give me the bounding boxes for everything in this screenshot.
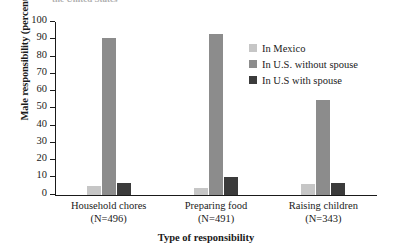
bar: [87, 186, 101, 195]
x-axis-group-label: Raising children(N=343): [253, 200, 393, 225]
y-axis-tick-label: 50: [37, 100, 48, 111]
y-axis-tick-label: 70: [37, 66, 48, 77]
x-axis-line: [55, 195, 377, 196]
bar: [117, 183, 131, 195]
x-axis-category-count: (N=343): [253, 213, 393, 226]
y-axis-title: Male responsibility (percent): [19, 0, 30, 138]
legend: In MexicoIn U.S. without spouseIn U.S wi…: [249, 41, 358, 89]
y-axis-tick: 20: [50, 159, 55, 160]
bar-group: [194, 22, 238, 195]
y-axis-tick-label: 10: [37, 169, 48, 180]
bar: [301, 184, 315, 194]
y-axis-tick: 0: [50, 194, 55, 195]
y-axis-line: [55, 22, 56, 196]
x-axis-title: Type of responsibility: [0, 232, 412, 243]
bar: [331, 183, 345, 195]
y-axis-tick: 80: [50, 56, 55, 57]
y-axis-tick-label: 90: [37, 31, 48, 42]
legend-item: In U.S. without spouse: [249, 57, 358, 71]
bar: [316, 100, 330, 195]
legend-item: In U.S with spouse: [249, 73, 358, 87]
bar-chart-figure: the United States Male responsibility (p…: [0, 0, 412, 249]
y-axis-tick-label: 40: [37, 118, 48, 129]
y-axis-tick: 60: [50, 90, 55, 91]
y-axis-tick-label: 60: [37, 83, 48, 94]
y-axis-tick: 70: [50, 73, 55, 74]
bar: [224, 177, 238, 194]
legend-label: In U.S. without spouse: [262, 59, 358, 70]
chart-title: the United States: [52, 0, 352, 4]
y-axis-tick: 10: [50, 176, 55, 177]
x-axis-category-name: Raising children: [289, 200, 358, 211]
y-axis-tick-label: 0: [42, 187, 47, 198]
y-axis-tick: 40: [50, 125, 55, 126]
y-axis-tick: 30: [50, 142, 55, 143]
y-axis-tick: 50: [50, 107, 55, 108]
x-axis-category-name: Household chores: [71, 200, 147, 211]
bar: [209, 34, 223, 195]
legend-swatch: [249, 76, 257, 84]
bar-group: [87, 22, 131, 195]
y-axis-tick: 100: [50, 21, 55, 22]
legend-label: In Mexico: [262, 43, 305, 54]
legend-label: In U.S with spouse: [262, 75, 342, 86]
legend-swatch: [249, 44, 257, 52]
x-axis-category-name: Preparing food: [185, 200, 248, 211]
y-axis-tick: 90: [50, 38, 55, 39]
legend-swatch: [249, 60, 257, 68]
bar: [194, 188, 208, 195]
legend-item: In Mexico: [249, 41, 358, 55]
y-axis-tick-label: 20: [37, 152, 48, 163]
y-axis-tick-label: 100: [31, 14, 47, 25]
y-axis-tick-label: 80: [37, 49, 48, 60]
bar: [102, 38, 116, 195]
y-axis-tick-label: 30: [37, 135, 48, 146]
